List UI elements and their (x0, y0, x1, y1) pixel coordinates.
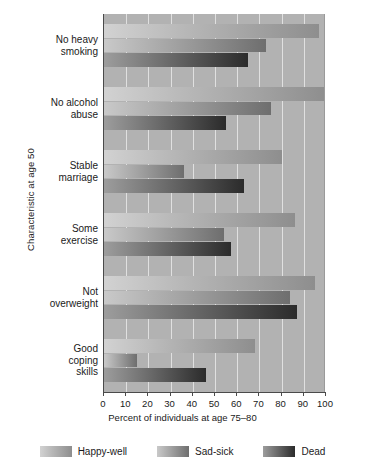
category-label-line: Good (10, 343, 98, 355)
category-label: Someexercise (10, 223, 98, 246)
legend-swatch (40, 446, 72, 457)
category-label-line: coping (10, 355, 98, 367)
bar (104, 179, 244, 193)
bar (104, 213, 295, 227)
legend: Happy-wellSad-sickDead (0, 442, 365, 460)
plot-area (103, 14, 325, 392)
x-axis-tick-label: 100 (310, 398, 340, 409)
category-label-line: Not (10, 286, 98, 298)
legend-label: Dead (301, 446, 325, 457)
gridline (282, 14, 283, 392)
bar-group (104, 213, 325, 256)
legend-item: Dead (263, 446, 325, 457)
gridline (193, 14, 194, 392)
bar-group (104, 24, 325, 67)
bar (104, 354, 137, 368)
category-label: Goodcopingskills (10, 343, 98, 378)
bar (104, 102, 271, 116)
category-axis-labels: No heavysmokingNo alcoholabuseStablemarr… (8, 14, 98, 392)
x-axis-tick (170, 392, 171, 396)
bar (104, 53, 248, 67)
gridlines (104, 14, 325, 392)
gridline (171, 14, 172, 392)
bar (104, 228, 224, 242)
bar (104, 339, 255, 353)
bar-group (104, 276, 325, 319)
x-axis-tick (214, 392, 215, 396)
bar (104, 39, 266, 53)
gridline (259, 14, 260, 392)
bar-group (104, 87, 325, 130)
bar (104, 165, 184, 179)
bar (104, 24, 319, 38)
bar-group (104, 150, 325, 193)
category-label-line: marriage (10, 172, 98, 184)
category-label-line: smoking (10, 46, 98, 58)
category-label-line: No heavy (10, 34, 98, 46)
category-label-line: skills (10, 366, 98, 378)
bar (104, 305, 297, 319)
category-label-line: abuse (10, 109, 98, 121)
x-axis-title: Percent of individuals at age 75–80 (0, 412, 365, 423)
category-label: Stablemarriage (10, 160, 98, 183)
bar (104, 276, 315, 290)
category-label-line: exercise (10, 235, 98, 247)
gridline (148, 14, 149, 392)
bar (104, 150, 282, 164)
legend-swatch (263, 446, 295, 457)
bar (104, 87, 325, 101)
bar (104, 291, 290, 305)
legend-label: Happy-well (78, 446, 127, 457)
gridline (215, 14, 216, 392)
x-axis-tick (147, 392, 148, 396)
gridline (304, 14, 305, 392)
bar-chart-figure: Characteristic at age 50 No heavysmoking… (0, 0, 365, 467)
legend-item: Happy-well (40, 446, 127, 457)
x-axis-tick (236, 392, 237, 396)
bar (104, 368, 206, 382)
gridline (237, 14, 238, 392)
category-label: No heavysmoking (10, 34, 98, 57)
bar (104, 116, 226, 130)
x-axis-tick (325, 392, 326, 396)
bar-group (104, 339, 325, 382)
category-label-line: Some (10, 223, 98, 235)
category-label-line: overweight (10, 298, 98, 310)
x-axis-tick (303, 392, 304, 396)
category-label: No alcoholabuse (10, 97, 98, 120)
x-axis-tick (103, 392, 104, 396)
gridline (126, 14, 127, 392)
category-label: Notoverweight (10, 286, 98, 309)
x-axis-tick (281, 392, 282, 396)
x-axis-tick (125, 392, 126, 396)
legend-item: Sad-sick (157, 446, 233, 457)
legend-swatch (157, 446, 189, 457)
x-axis-tick (192, 392, 193, 396)
x-axis-tick (258, 392, 259, 396)
plot-right-edge (324, 14, 325, 392)
category-label-line: No alcohol (10, 97, 98, 109)
category-label-line: Stable (10, 160, 98, 172)
bar (104, 242, 231, 256)
legend-label: Sad-sick (195, 446, 233, 457)
